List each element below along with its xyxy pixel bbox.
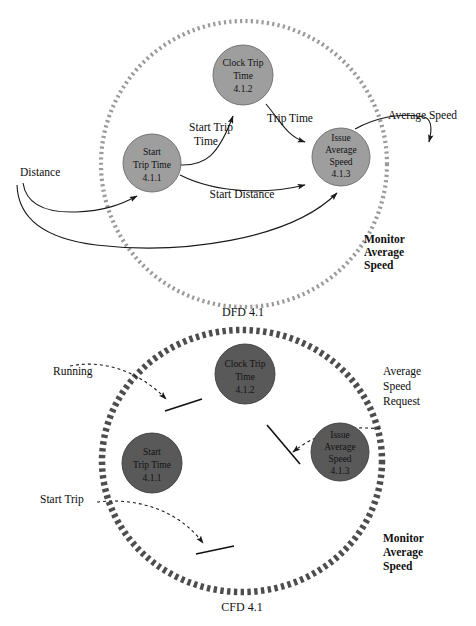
dfd-process-clock-trip-time[interactable]: Clock Trip Time 4.1.2: [213, 45, 273, 105]
cfd-process-411-name-line1: Start: [143, 447, 161, 457]
cfd-control-bar-start-trip: [196, 546, 234, 554]
cfd-process-413-number: 4.1.3: [331, 466, 350, 476]
cfd-process-412-number: 4.1.2: [236, 385, 255, 395]
diagram-root: Clock Trip Time 4.1.2 Start Trip Time 4.…: [0, 0, 476, 626]
dfd-flow-label-distance: Distance: [20, 166, 60, 178]
dfd-diagram: Clock Trip Time 4.1.2 Start Trip Time 4.…: [17, 21, 457, 319]
dfd-flow-label-trip-time: Trip Time: [267, 112, 313, 125]
dfd-flow-label-start-distance: Start Distance: [210, 188, 275, 200]
cfd-process-start-trip-time[interactable]: Start Trip Time 4.1.1: [122, 433, 182, 493]
cfd-process-412-name-line2: Time: [235, 372, 255, 382]
dfd-boundary-label-line3: Speed: [364, 259, 394, 272]
cfd-process-413-name-line2: Average: [324, 442, 355, 452]
dfd-boundary-label-line1: Monitor: [364, 233, 405, 245]
dfd-process-412-name-line1: Clock Trip: [223, 58, 264, 68]
dfd-process-413-name-line2: Average: [325, 145, 356, 155]
cfd-flow-label-average-speed-request-line2: Speed: [383, 380, 411, 393]
dfd-process-411-name-line1: Start: [143, 147, 161, 157]
cfd-boundary-label-line1: Monitor: [383, 532, 424, 544]
dfd-process-412-number: 4.1.2: [234, 84, 253, 94]
dfd-process-413-name-line3: Speed: [329, 157, 352, 167]
cfd-boundary-label-line2: Average: [383, 546, 423, 559]
cfd-diagram: Clock Trip Time 4.1.2 Start Trip Time 4.…: [40, 330, 424, 614]
dfd-process-411-name-line2: Trip Time: [133, 160, 171, 170]
cfd-boundary-label-line3: Speed: [383, 560, 413, 573]
flow-distance-to-issue-average-speed: [17, 185, 337, 248]
cfd-caption: CFD 4.1: [221, 600, 262, 614]
cfd-process-412-name-line1: Clock Trip: [225, 359, 266, 369]
cfd-flow-label-running: Running: [53, 365, 93, 378]
dfd-process-413-number: 4.1.3: [332, 169, 351, 179]
cfd-process-413-name-line1: Issue: [330, 430, 350, 440]
cfd-flow-label-start-trip: Start Trip: [40, 493, 84, 506]
cfd-process-clock-trip-time[interactable]: Clock Trip Time 4.1.2: [215, 344, 275, 404]
dfd-process-start-trip-time[interactable]: Start Trip Time 4.1.1: [123, 134, 181, 192]
dfd-flow-label-start-trip-time-line1: Start Trip: [189, 121, 233, 134]
dfd-boundary-label-line2: Average: [364, 246, 404, 259]
dfd-process-issue-average-speed[interactable]: Issue Average Speed 4.1.3: [312, 128, 370, 186]
flow-distance-to-start-trip-time: [23, 183, 137, 212]
dfd-flow-label-average-speed: Average Speed: [388, 109, 457, 122]
cfd-process-issue-average-speed[interactable]: Issue Average Speed 4.1.3: [311, 423, 369, 481]
dfd-process-413-name-line1: Issue: [331, 133, 351, 143]
cfd-flow-label-average-speed-request-line3: Request: [383, 395, 421, 408]
cfd-process-411-number: 4.1.1: [143, 473, 162, 483]
cfd-process-411-name-line2: Trip Time: [133, 460, 171, 470]
cfd-flow-label-average-speed-request-line1: Average: [383, 365, 421, 378]
flow-start-trip: [97, 501, 203, 543]
cfd-process-413-name-line3: Speed: [328, 454, 351, 464]
cfd-control-bar-average-speed-request: [267, 425, 300, 464]
dfd-process-411-number: 4.1.1: [143, 173, 162, 183]
cfd-control-bar-running: [165, 399, 202, 411]
dfd-caption: DFD 4.1: [222, 305, 264, 319]
dfd-flow-label-start-trip-time-line2: Time: [194, 135, 218, 147]
diagram-canvas: Clock Trip Time 4.1.2 Start Trip Time 4.…: [0, 0, 476, 626]
dfd-process-412-name-line2: Time: [233, 71, 253, 81]
